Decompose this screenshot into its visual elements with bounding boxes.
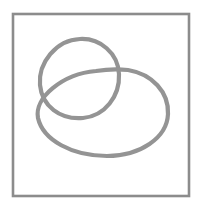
figure-root: Two interlocking loops inside a rectangu… <box>0 0 199 211</box>
diagram-canvas <box>0 0 199 211</box>
